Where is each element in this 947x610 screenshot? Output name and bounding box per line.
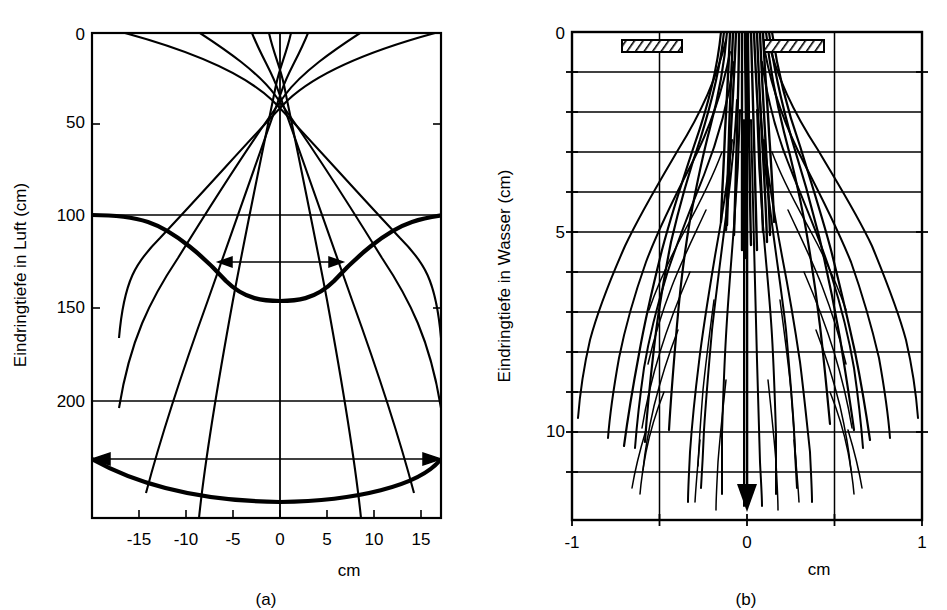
figure-root: Eindringtiefe in Luft (cm) 0 50 100 150 …	[0, 0, 947, 610]
panel-b-svg: Eindringtiefe in Wasser (cm) 0 5 10 -1 0…	[474, 0, 947, 610]
panel-a-y-axis-title: Eindringtiefe in Luft (cm)	[11, 183, 30, 367]
panel-a-xtick-0: 0	[275, 530, 284, 549]
panel-a-svg: Eindringtiefe in Luft (cm) 0 50 100 150 …	[0, 0, 474, 610]
panel-a-envelope-lower	[92, 459, 441, 502]
panel-b-x-unit-label: cm	[808, 560, 831, 579]
collimator-right-bar	[764, 40, 824, 52]
panel-a-xtick-m10: -10	[174, 530, 199, 549]
panel-b-ytick-10: 10	[546, 422, 565, 441]
panel-a-ytick-200: 200	[57, 392, 85, 411]
panel-b-xtick-m1: -1	[564, 533, 579, 552]
panel-b-caption: (b)	[736, 590, 757, 609]
panel-a-xtick-m5: -5	[225, 530, 240, 549]
panel-a-ytick-0: 0	[76, 25, 85, 44]
panel-a-xtick-5: 5	[322, 530, 331, 549]
panel-a: Eindringtiefe in Luft (cm) 0 50 100 150 …	[0, 0, 474, 610]
panel-a-frame	[92, 33, 441, 518]
panel-b-xtick-0: 0	[742, 533, 751, 552]
panel-a-ytick-50: 50	[66, 113, 85, 132]
panel-b-ytick-5: 5	[556, 223, 565, 242]
panel-b-ytick-0: 0	[556, 24, 565, 43]
panel-a-ytick-100: 100	[57, 206, 85, 225]
panel-a-xtick-15: 15	[412, 530, 431, 549]
collimator-left-bar	[622, 40, 682, 52]
panel-a-xtick-10: 10	[365, 530, 384, 549]
panel-a-gridlines	[92, 33, 441, 401]
panel-a-width-arrow-lower	[92, 453, 441, 465]
panel-a-caption: (a)	[256, 590, 277, 609]
panel-b-y-axis-title: Eindringtiefe in Wasser (cm)	[495, 170, 514, 383]
panel-b-xtick-1: 1	[917, 533, 926, 552]
panel-b: Eindringtiefe in Wasser (cm) 0 5 10 -1 0…	[474, 0, 947, 610]
panel-a-xtick-m15: -15	[127, 530, 152, 549]
panel-a-ytick-150: 150	[57, 298, 85, 317]
panel-a-x-unit-label: cm	[338, 561, 361, 580]
